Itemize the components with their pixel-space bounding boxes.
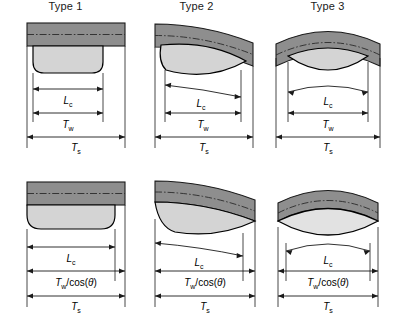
dimension-lc: Lc	[288, 86, 368, 109]
dimension-label-ts: Ts	[199, 142, 209, 155]
panel-type-2-bottom: Lc Tw/cos(θ) Ts	[131, 159, 262, 318]
panel-title-type-2: Type 2	[131, 0, 262, 12]
dimension-ts: Ts	[155, 293, 255, 313]
dimension-tw: Tw	[288, 110, 368, 131]
dimension-lc: Lc	[33, 86, 103, 107]
dimension-tw-cos: Tw/cos(θ)	[155, 268, 255, 289]
dimension-label-tw: Tw	[62, 119, 74, 132]
dimension-ts: Ts	[155, 134, 253, 154]
diagram-type-2-bottom: Lc Tw/cos(θ) Ts	[131, 159, 262, 318]
panel-title-type-1: Type 1	[0, 0, 131, 12]
dimension-tw: Tw	[165, 110, 241, 131]
dimension-label-ts: Ts	[200, 301, 210, 314]
dimension-label-lc: Lc	[63, 95, 73, 108]
dimension-label-tw: Tw	[322, 119, 334, 132]
diagram-type-3-top: Lc Tw Ts	[262, 0, 393, 159]
dimension-label-lc: Lc	[323, 255, 333, 268]
dimension-lc: Lc	[165, 83, 241, 111]
diagram-type-2-top: Lc Tw Ts	[131, 0, 262, 159]
sheet-band-flat	[27, 182, 125, 205]
diagram-type-1-top: Lc Tw Ts	[0, 0, 131, 159]
weld-nugget-wide-rounded-rect	[27, 205, 115, 229]
dimension-label-ts: Ts	[71, 142, 81, 155]
dimension-tw-cos: Tw/cos(θ)	[27, 268, 125, 289]
diagram-type-1-bottom: Lc Tw/cos(θ) Ts	[0, 159, 131, 318]
dimension-tw-cos: Tw/cos(θ)	[278, 268, 378, 289]
dimension-label-ts: Ts	[71, 301, 81, 314]
diagram-type-3-bottom: Lc Tw/cos(θ) Ts	[262, 159, 393, 318]
panel-type-3-bottom: Lc Tw/cos(θ) Ts	[262, 159, 393, 318]
weld-nugget-ellipse	[288, 48, 368, 70]
dimension-label-tw-cos: Tw/cos(θ)	[307, 277, 349, 290]
dimension-label-lc: Lc	[196, 98, 206, 111]
panel-type-3-top: Type 3 Lc	[262, 0, 393, 159]
dimension-ts: Ts	[278, 293, 378, 313]
panel-type-1-top: Type 1 Lc	[0, 0, 131, 159]
dimension-label-ts: Ts	[323, 142, 333, 155]
weld-nugget-rounded-rect	[33, 46, 103, 73]
dimension-label-tw-cos: Tw/cos(θ)	[184, 277, 226, 290]
dimension-label-lc: Lc	[66, 253, 76, 266]
sheet-band-flat	[27, 23, 125, 46]
dimension-label-lc: Lc	[194, 257, 204, 270]
dimension-label-tw: Tw	[197, 119, 209, 132]
dimension-ts: Ts	[27, 293, 125, 313]
dimension-lc: Lc	[27, 244, 115, 265]
extension-lines	[278, 227, 378, 307]
dimension-ts: Ts	[276, 134, 380, 154]
figure-canvas: Type 1 Lc	[0, 0, 393, 318]
dimension-tw: Tw	[33, 110, 103, 131]
dimension-lc: Lc	[155, 241, 243, 270]
dimension-label-ts: Ts	[323, 301, 333, 314]
panel-type-2-top: Type 2 Lc	[131, 0, 262, 159]
dimension-label-tw-cos: Tw/cos(θ)	[55, 277, 97, 290]
dimension-lc: Lc	[286, 244, 370, 268]
panel-type-1-bottom: Lc Tw/cos(θ) Ts	[0, 159, 131, 318]
dimension-label-lc: Lc	[323, 96, 333, 109]
panel-title-type-3: Type 3	[262, 0, 393, 12]
dimension-ts: Ts	[27, 134, 125, 154]
